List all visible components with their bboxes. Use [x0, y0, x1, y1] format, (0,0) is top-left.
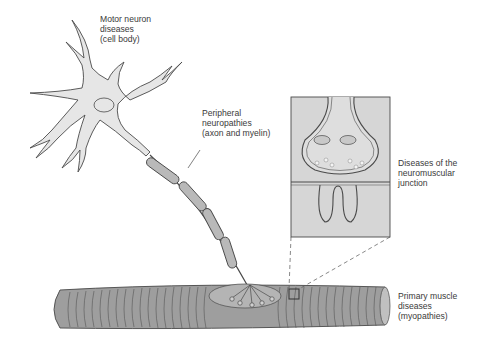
zoom-guide-lines — [289, 237, 390, 289]
nucleus — [94, 98, 114, 112]
nmj-inset — [291, 97, 390, 237]
label-motor-neuron: Motor neuron diseases (cell body) — [100, 14, 151, 44]
label-nmj-diseases: Diseases of the neuromuscular junction — [398, 158, 457, 188]
muscle-fiber — [54, 284, 390, 329]
axon-myelin — [145, 155, 250, 290]
label-primary-muscle: Primary muscle diseases (myopathies) — [398, 291, 457, 321]
label-peripheral-neuropathies: Peripheral neuropathies (axon and myelin… — [202, 108, 270, 138]
